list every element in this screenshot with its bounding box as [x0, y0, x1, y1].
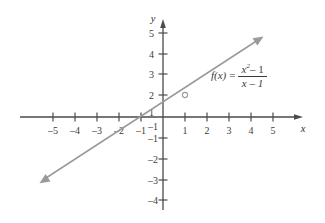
removable-discontinuity-open-circle: [182, 92, 187, 97]
x-tick-label: –3: [91, 125, 102, 136]
axes-group: [20, 19, 303, 210]
formula-denominator: x – 1: [239, 77, 266, 89]
y-tick-label: –1: [147, 133, 158, 144]
x-tick-label: 5: [271, 125, 276, 136]
formula-equals-sign: =: [229, 70, 235, 81]
y-tick-label: –4: [147, 195, 158, 206]
formula-fraction: x2– 1 x – 1: [238, 63, 266, 89]
x-tick-label: 2: [205, 125, 210, 136]
x-tick-label: –1: [135, 125, 146, 136]
graph-figure: –5 –4 –3 –2 –1 1 2 3 4 5 5 4 3 2 1 –1 –2…: [0, 0, 325, 223]
y-axis-label: y: [150, 13, 156, 24]
y-tick-label: 5: [149, 28, 154, 39]
y-tick-label: –2: [147, 154, 158, 165]
function-line-arrowhead-end: [253, 36, 264, 45]
formula-function-name: f(x): [211, 70, 226, 81]
x-tick-label: –4: [69, 125, 80, 136]
y-tick-label: 3: [149, 69, 154, 80]
y-tick-label: 2: [149, 90, 154, 101]
x-tick-label: 3: [227, 125, 232, 136]
x-tick-label: 4: [249, 125, 254, 136]
y-tick-label: 4: [149, 49, 154, 60]
x-tick-label-negative-one-origin: –1: [147, 121, 158, 132]
y-axis-arrowhead: [160, 19, 166, 28]
y-tick-label: –3: [147, 175, 158, 186]
formula-numerator: x2– 1: [238, 63, 266, 76]
function-formula-annotation: f(x) = x2– 1 x – 1: [211, 63, 267, 89]
x-axis-label: x: [300, 123, 306, 134]
x-axis-arrowhead: [294, 114, 303, 120]
formula-numerator-rest: – 1: [250, 63, 264, 75]
x-tick-labels: –5 –4 –3 –2 –1 1 2 3 4 5: [47, 125, 276, 136]
x-tick-label: –5: [47, 125, 58, 136]
coordinate-plane-svg: –5 –4 –3 –2 –1 1 2 3 4 5 5 4 3 2 1 –1 –2…: [0, 0, 325, 223]
x-tick-label: 1: [183, 125, 188, 136]
